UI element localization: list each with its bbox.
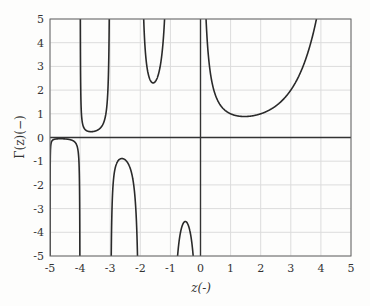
zero-axes: [50, 19, 351, 256]
gamma-branch: [80, 0, 110, 132]
x-tick-label: 4: [317, 262, 324, 275]
y-tick-label: -5: [33, 250, 44, 263]
y-tick-label: 4: [37, 37, 44, 50]
y-tick-label: 3: [37, 60, 44, 73]
y-tick-label: -1: [33, 155, 44, 168]
x-tick-label: -3: [105, 262, 116, 275]
x-tick-label: -2: [135, 262, 146, 275]
y-tick-label: 5: [37, 13, 44, 26]
x-axis-label: z(-): [190, 281, 211, 295]
x-tick-label: 1: [227, 262, 234, 275]
y-tick-label: 1: [37, 108, 44, 121]
x-tick-label: -1: [165, 262, 176, 275]
x-tick-labels: -5-4-3-2-1012345: [45, 262, 355, 275]
gamma-branch: [201, 0, 351, 117]
gamma-function-chart: -5-4-3-2-1012345 -5-4-3-2-1012345 z(-) Γ…: [0, 0, 370, 306]
x-tick-label: -4: [75, 262, 86, 275]
gamma-branch: [50, 139, 80, 280]
y-tick-labels: -5-4-3-2-1012345: [33, 13, 44, 263]
x-tick-label: 0: [197, 262, 204, 275]
x-tick-label: 2: [257, 262, 264, 275]
gamma-branch: [140, 0, 170, 83]
y-tick-label: -3: [33, 203, 44, 216]
y-tick-label: 2: [37, 84, 44, 97]
x-tick-label: 5: [348, 262, 355, 275]
y-tick-label: -4: [33, 226, 44, 239]
y-axis-label: Γ(z)(−): [13, 115, 27, 158]
y-tick-label: 0: [37, 132, 44, 145]
x-tick-label: 3: [287, 262, 294, 275]
y-tick-label: -2: [33, 179, 44, 192]
x-tick-label: -5: [45, 262, 56, 275]
